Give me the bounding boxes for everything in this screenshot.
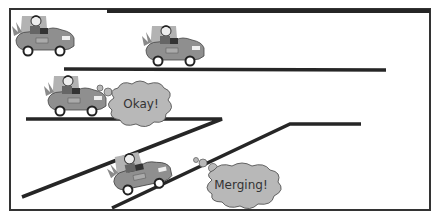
car-top-middle — [142, 26, 204, 66]
merging-bubble: Merging! — [194, 158, 282, 209]
merging-diagram: Okay! Merging! — [0, 0, 441, 221]
cars — [12, 16, 204, 198]
car-on-ramp — [105, 146, 174, 198]
okay-bubble-text: Okay! — [123, 97, 158, 111]
middle-lane-divider — [64, 69, 386, 70]
merging-bubble-text: Merging! — [214, 178, 267, 192]
car-middle-lane — [44, 76, 106, 116]
diagram-canvas: Okay! Merging! — [0, 0, 441, 221]
car-top-left — [12, 16, 74, 56]
